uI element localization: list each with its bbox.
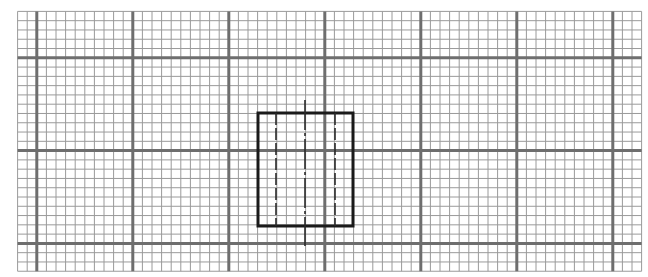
grid-paper-diagram <box>0 0 648 277</box>
cylinder-front-view <box>258 100 353 246</box>
minor-grid-lines <box>18 11 642 271</box>
